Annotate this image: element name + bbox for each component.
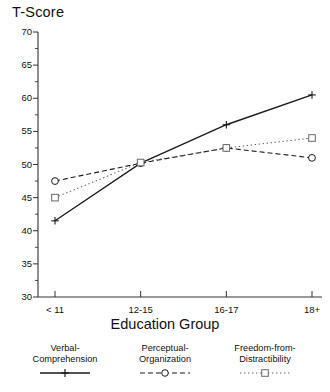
y-tick-label: 50 [6, 159, 32, 170]
y-tick-label: 65 [6, 59, 32, 70]
y-tick-label: 45 [6, 192, 32, 203]
y-tick-label: 40 [6, 225, 32, 236]
x-tick-label: < 11 [25, 304, 85, 315]
legend-label-line2: Distractibility [239, 354, 291, 365]
x-ticks [55, 291, 312, 297]
legend-swatch-square-icon [228, 368, 302, 378]
plot-canvas [0, 0, 330, 392]
legend-item-2[interactable]: Freedom-from-Distractibility [219, 343, 311, 378]
y-tick-label: 30 [6, 291, 32, 302]
legend-item-1[interactable]: Perceptual-Organization [119, 343, 211, 378]
series-1 [52, 145, 316, 185]
y-ticks [33, 32, 38, 297]
chart-legend: Verbal-ComprehensionPerceptual-Organizat… [0, 343, 330, 378]
legend-label-line2: Comprehension [33, 354, 98, 365]
y-tick-label: 35 [6, 258, 32, 269]
axes [38, 32, 322, 297]
x-tick-label: 18+ [282, 304, 330, 315]
legend-swatch-circle-icon [128, 368, 202, 378]
x-tick-label: 16-17 [196, 304, 256, 315]
legend-label-line2: Organization [139, 354, 191, 365]
legend-label-line1: Perceptual- [142, 343, 189, 354]
y-axis-title: T-Score [12, 4, 64, 20]
y-tick-label: 55 [6, 125, 32, 136]
series-0 [51, 91, 316, 224]
legend-label-line1: Freedom-from- [234, 343, 295, 354]
x-axis-title: Education Group [0, 316, 330, 332]
legend-swatch-plus-icon [28, 368, 102, 378]
y-tick-label: 60 [6, 92, 32, 103]
x-tick-label: 12-15 [111, 304, 171, 315]
legend-item-0[interactable]: Verbal-Comprehension [19, 343, 111, 378]
legend-label-line1: Verbal- [50, 343, 79, 354]
y-tick-label: 70 [6, 26, 32, 37]
chart-figure: T-Score 303540455055606570 < 1112-1516-1… [0, 0, 330, 392]
